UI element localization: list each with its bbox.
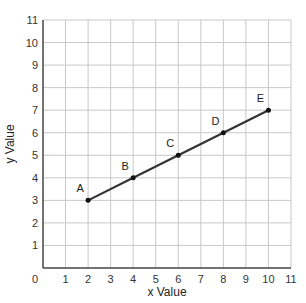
- x-tick-labels: 01234567891011: [32, 273, 297, 285]
- x-tick-label: 4: [130, 273, 136, 285]
- point-label: C: [166, 137, 174, 149]
- point-label: A: [76, 182, 84, 194]
- x-tick-label: 6: [175, 273, 181, 285]
- x-tick-label: 11: [285, 273, 296, 285]
- y-tick-label: 2: [32, 217, 38, 229]
- y-tick-label: 6: [32, 127, 38, 139]
- x-tick-label: 1: [62, 273, 68, 285]
- x-tick-label: 3: [108, 273, 114, 285]
- data-point: [266, 108, 271, 113]
- x-tick-label: 5: [153, 273, 159, 285]
- x-tick-label: 8: [220, 273, 226, 285]
- line-chart: 01234567891011 1234567891011 ABCDE x Val…: [0, 0, 306, 303]
- data-point: [221, 130, 226, 135]
- y-tick-label: 3: [32, 194, 38, 206]
- y-tick-label: 7: [32, 104, 38, 116]
- y-tick-label: 9: [32, 59, 38, 71]
- point-label: E: [257, 92, 264, 104]
- data-point: [131, 175, 136, 180]
- point-label: B: [122, 160, 129, 172]
- x-axis-label: x Value: [147, 285, 186, 299]
- y-axis-label: y Value: [3, 124, 17, 163]
- data-point: [86, 198, 91, 203]
- y-tick-label: 10: [26, 37, 38, 49]
- data-point: [176, 153, 181, 158]
- x-tick-label: 7: [198, 273, 204, 285]
- y-tick-labels: 1234567891011: [26, 14, 38, 251]
- x-tick-label: 2: [85, 273, 91, 285]
- data-series: ABCDE: [76, 92, 271, 203]
- y-tick-label: 8: [32, 82, 38, 94]
- y-tick-label: 4: [32, 172, 38, 184]
- x-tick-label: 0: [32, 273, 38, 285]
- x-tick-label: 10: [262, 273, 274, 285]
- point-label: D: [211, 115, 219, 127]
- x-tick-label: 9: [243, 273, 249, 285]
- y-tick-label: 11: [27, 14, 38, 26]
- y-tick-label: 1: [32, 239, 38, 251]
- y-tick-label: 5: [32, 149, 38, 161]
